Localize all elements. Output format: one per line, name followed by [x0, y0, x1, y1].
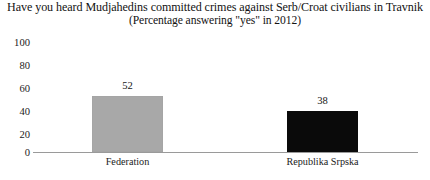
category-label-federation: Federation — [72, 156, 183, 168]
bar-value-federation: 52 — [92, 80, 163, 91]
y-axis-tick-60: 60 — [2, 83, 30, 94]
plot-area: 100 80 60 40 20 0 52 38 Federation Repub… — [0, 0, 430, 180]
chart-figure: Have you heard Mudjahedins committed cri… — [0, 0, 430, 180]
bar-federation — [92, 96, 163, 152]
bar-republika-srpska — [287, 111, 358, 152]
y-axis-tick-20: 20 — [2, 129, 30, 140]
y-axis-tick-0: 0 — [2, 147, 30, 158]
y-axis-tick-40: 40 — [2, 106, 30, 117]
y-axis-tick-80: 80 — [2, 60, 30, 71]
bar-value-republika-srpska: 38 — [287, 95, 358, 106]
category-label-republika-srpska: Republika Srpska — [257, 156, 388, 168]
y-axis-tick-100: 100 — [2, 37, 30, 48]
x-axis-line — [33, 152, 418, 153]
